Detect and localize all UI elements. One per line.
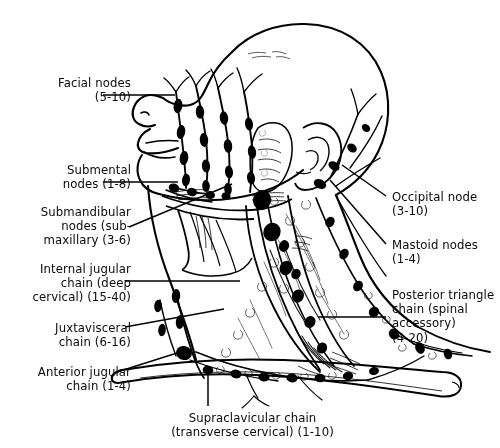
label-posterior-triangle-chain: Posterior triangle chain (spinal accesso… bbox=[392, 288, 500, 345]
label-occipital-node: Occipital node (3-10) bbox=[392, 190, 500, 218]
label-juxtavisceral-chain: Juxtavisceral chain (6-16) bbox=[16, 321, 131, 349]
label-supraclavicular-chain: Supraclavicular chain (transverse cervic… bbox=[110, 411, 395, 439]
lymph-node-diagram-page: Facial nodes (5-10) Submental nodes (1-8… bbox=[0, 0, 500, 448]
label-submandibular-nodes: Submandibular nodes (sub- maxillary (3-6… bbox=[6, 205, 131, 248]
label-anterior-jugular-chain: Anterior jugular chain (1-4) bbox=[10, 365, 131, 393]
label-submental-nodes: Submental nodes (1-8) bbox=[16, 163, 131, 191]
label-facial-nodes: Facial nodes (5-10) bbox=[16, 76, 131, 104]
label-mastoid-nodes: Mastoid nodes (1-4) bbox=[392, 238, 500, 266]
label-internal-jugular-chain: Internal jugular chain (deep cervical) (… bbox=[6, 262, 131, 305]
